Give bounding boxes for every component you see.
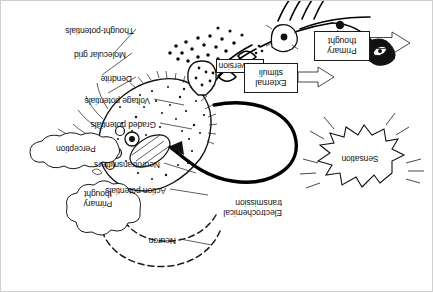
axon-node-soma xyxy=(266,25,301,52)
label-thought-potentials: Thought-potentials xyxy=(65,26,134,36)
box-primary-thought: Primary thought xyxy=(314,31,370,61)
burst-sensation-text: Sensation xyxy=(330,154,390,164)
box-external-stimuli: External stimuli xyxy=(244,63,298,93)
cloud-primary-thought-line-1: Primary xyxy=(70,199,126,209)
rotated-figure-group: Thought-potentials Molecular grid Dendri… xyxy=(1,1,432,291)
label-neuron: Neuron xyxy=(149,236,176,246)
box-external-stimuli-line-1: External xyxy=(255,78,286,88)
cloud-primary-thought-text: Primary thought xyxy=(70,189,126,209)
label-molecular-grid: Molecular grid xyxy=(74,50,126,60)
figure-canvas: Thought-potentials Molecular grid Dendri… xyxy=(0,0,433,292)
label-graded-potentials: Graded potentials xyxy=(91,120,156,130)
label-voltage-potentials: Voltage potentials xyxy=(85,96,150,106)
box-primary-thought-line-2: thought xyxy=(328,36,356,46)
transduction-node-dot xyxy=(336,21,344,29)
cloud-perception-text: Perception xyxy=(44,144,108,154)
label-neurotransmitters: Neurotransmitters xyxy=(94,160,160,170)
axon-terminal xyxy=(188,61,217,95)
label-electrochemical-transmission: Electrochemical transmission xyxy=(214,198,282,217)
external-stimuli-arrow xyxy=(298,67,334,87)
terminal-brush xyxy=(278,0,326,21)
box-primary-thought-line-1: Primary xyxy=(327,46,356,56)
sensation-starburst xyxy=(300,113,424,188)
electrochemical-line-2: transmission xyxy=(214,198,282,208)
label-dendrite: Dendrite xyxy=(101,74,132,84)
electrochemical-line-1: Electrochemical xyxy=(214,208,282,218)
box-external-stimuli-line-2: stimuli xyxy=(259,68,283,78)
cloud-primary-thought-line-2: thought xyxy=(70,189,126,199)
